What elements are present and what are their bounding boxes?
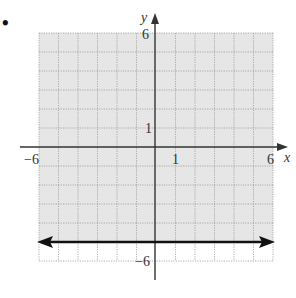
y-min-label: −6: [135, 254, 150, 269]
x-axis-label: x: [283, 150, 291, 165]
x-unit-label: 1: [172, 152, 179, 167]
problem-marker: •: [0, 13, 11, 34]
y-axis-label: y: [139, 10, 148, 25]
x-min-label: −6: [24, 152, 39, 167]
y-max-label: 6: [142, 27, 149, 42]
coordinate-plane: •: [0, 0, 296, 298]
y-unit-label: 1: [145, 121, 152, 136]
shaded-region: [39, 33, 273, 242]
y-axis-arrow-icon: [151, 13, 159, 24]
x-max-label: 6: [267, 152, 274, 167]
